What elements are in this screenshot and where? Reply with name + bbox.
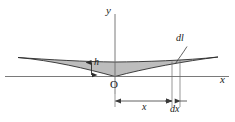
y-axis-label: y	[106, 5, 111, 16]
height-label: h	[94, 57, 99, 67]
element-length-label: dl	[176, 33, 184, 43]
origin-label: O	[110, 79, 118, 90]
lens-shape	[18, 57, 218, 77]
parabolic-lens-figure	[0, 0, 235, 122]
figure-container: y x O h dl x dx	[0, 0, 235, 122]
distance-label: x	[142, 102, 146, 112]
x-axis-label: x	[220, 74, 225, 85]
differential-label: dx	[170, 104, 179, 114]
